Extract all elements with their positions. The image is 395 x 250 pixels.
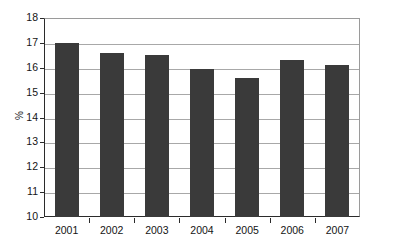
x-tick-mark xyxy=(89,218,90,223)
y-tick-label: 18 xyxy=(4,12,38,22)
y-tick-mark xyxy=(40,142,44,143)
x-tick-label: 2006 xyxy=(270,224,315,236)
y-tick-label: 17 xyxy=(4,37,38,47)
y-tick-label: 14 xyxy=(4,112,38,122)
x-tick-mark xyxy=(134,218,135,223)
y-tick-mark xyxy=(40,167,44,168)
x-tick-mark xyxy=(315,218,316,223)
x-tick-label: 2007 xyxy=(315,224,360,236)
y-tick-label: 12 xyxy=(4,161,38,171)
x-tick-label: 2002 xyxy=(89,224,134,236)
y-tick-label: 16 xyxy=(4,62,38,72)
y-tick-mark xyxy=(40,192,44,193)
y-tick-label: 13 xyxy=(4,136,38,146)
bars-layer xyxy=(44,18,360,217)
x-tick-mark xyxy=(225,218,226,223)
y-tick-mark xyxy=(40,18,44,19)
y-tick-mark xyxy=(40,118,44,119)
y-tick-label: 10 xyxy=(4,211,38,221)
x-tick-label: 2005 xyxy=(225,224,270,236)
x-tick-mark xyxy=(179,218,180,223)
bar xyxy=(325,65,349,217)
bar xyxy=(280,60,304,217)
x-tick-label: 2003 xyxy=(134,224,179,236)
bar xyxy=(145,55,169,217)
x-tick-label: 2001 xyxy=(44,224,89,236)
y-tick-label: 11 xyxy=(4,186,38,196)
bar xyxy=(55,43,79,217)
bar xyxy=(235,78,259,217)
y-tick-mark xyxy=(40,43,44,44)
bar-chart: % 10111213141516171820012002200320042005… xyxy=(0,0,395,250)
y-tick-mark xyxy=(40,68,44,69)
bar xyxy=(100,53,124,217)
y-tick-mark xyxy=(40,93,44,94)
x-tick-label: 2004 xyxy=(179,224,224,236)
x-tick-mark xyxy=(270,218,271,223)
bar xyxy=(190,69,214,217)
y-tick-label: 15 xyxy=(4,87,38,97)
y-tick-mark xyxy=(40,217,44,218)
